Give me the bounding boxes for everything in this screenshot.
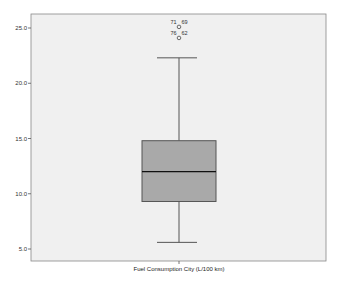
x-axis-title: Fuel Consumption City (L/100 km) (133, 266, 224, 272)
y-axis-tick-label: 25.0 (15, 25, 27, 31)
outlier-label: 76 (170, 30, 176, 36)
boxplot-chart: 5.010.015.020.025.0 71697662 Fuel Consum… (0, 0, 340, 281)
outlier-label: 62 (182, 30, 188, 36)
y-axis-tick-label: 10.0 (15, 191, 27, 197)
y-axis-tick-label: 15.0 (15, 136, 27, 142)
y-axis-tick-label: 20.0 (15, 80, 27, 86)
y-axis-tick-label: 5.0 (19, 246, 28, 252)
y-axis: 5.010.015.020.025.0 (15, 25, 31, 252)
outlier-label: 69 (182, 19, 188, 25)
outlier-label: 71 (170, 19, 176, 25)
